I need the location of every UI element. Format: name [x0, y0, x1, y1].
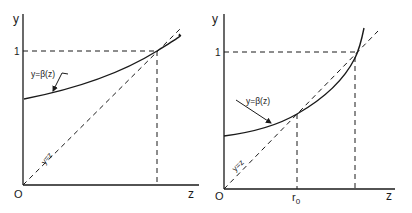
figure: y z O 1 y=β(z) y=z y z O 1 y=β(z) y=z r0: [0, 0, 412, 213]
right-curve-label: y=β(z): [246, 96, 270, 106]
left-diagram: y z O 1 y=β(z) y=z: [13, 12, 199, 201]
left-x-axis-label: z: [188, 187, 194, 201]
right-x-tick-label: r0: [292, 191, 301, 206]
left-diagonal-label: y=z: [39, 151, 54, 167]
left-curve-label: y=β(z): [31, 69, 55, 79]
left-curve-label-arrow: [53, 73, 68, 91]
right-x-axis-label: z: [386, 189, 392, 203]
right-diagram: y z O 1 y=β(z) y=z r0: [212, 12, 395, 206]
left-origin-label: O: [14, 188, 23, 200]
right-y-axis-label: y: [212, 12, 218, 26]
right-diagonal-label: y=z: [230, 158, 245, 173]
right-y-tick-label: 1: [215, 47, 221, 58]
left-y-tick-label: 1: [14, 46, 20, 57]
left-y-axis-label: y: [13, 12, 19, 26]
right-beta-curve: [224, 28, 364, 136]
right-origin-label: O: [215, 190, 224, 202]
